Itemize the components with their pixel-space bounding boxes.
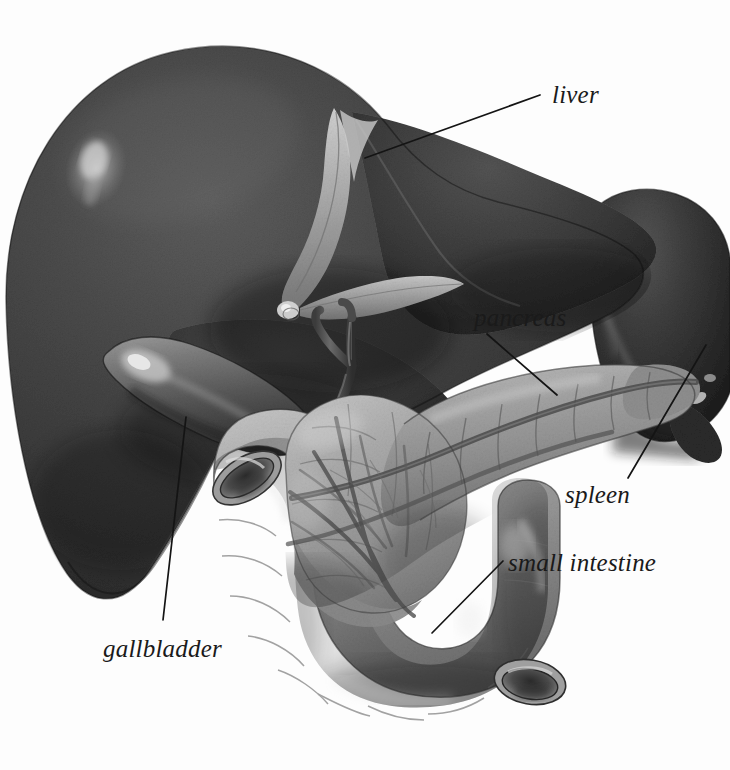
label-gallbladder: gallbladder (103, 636, 222, 661)
label-small-intestine: small intestine (508, 550, 656, 575)
label-pancreas: pancreas (474, 305, 566, 330)
anatomical-figure-page: liver pancreas spleen small intestine ga… (0, 0, 730, 770)
label-spleen: spleen (565, 482, 630, 507)
label-liver: liver (552, 82, 599, 107)
